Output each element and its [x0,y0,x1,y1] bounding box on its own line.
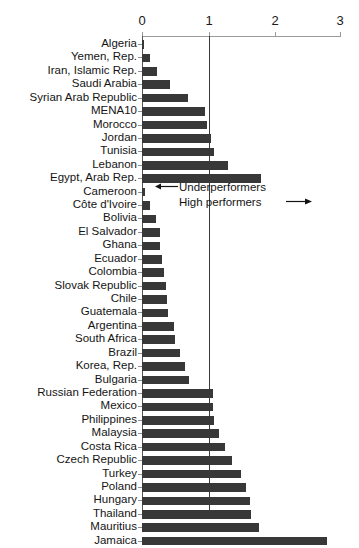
bar-row-label: Algeria [101,37,137,50]
bar [142,470,241,479]
bar [142,483,246,492]
bar [142,255,162,264]
bar-row: Slovak Republic [0,280,359,293]
bar-row-label: South Africa [75,332,137,345]
bar-row: Thailand [0,508,359,521]
annotation-underperformers: Underperformers [179,181,266,194]
bar-row-label: Ecuador [94,252,137,265]
bar [142,228,160,237]
bar-row: Bulgaria [0,374,359,387]
bar-row: South Africa [0,333,359,346]
bar [142,282,166,291]
bar-row-label: Guatemala [81,305,137,318]
bar [142,322,174,331]
bar-row: Korea, Rep. [0,360,359,373]
bar-row-label: Jamaica [94,534,137,547]
bar-row: Jamaica [0,535,359,548]
bar-row-label: Syrian Arab Republic [30,91,137,104]
bar-row-label: Poland [101,480,137,493]
bar-row-label: Yemen, Rep. [71,50,137,63]
bar [142,523,259,532]
bar-row: Jordan [0,132,359,145]
bar [142,349,180,358]
x-axis-line [142,36,340,37]
bar-row-label: Turkey [102,467,137,480]
bar-row-label: MENA10 [91,104,137,117]
bar [142,54,150,63]
bar [142,188,145,197]
bar [142,268,164,277]
bar-row-label: Saudi Arabia [72,77,137,90]
bar [142,389,213,398]
bar-row-label: Colombia [88,265,137,278]
bar [142,107,205,116]
bar-row-label: Brazil [108,346,137,359]
bar-row-label: Morocco [93,118,137,131]
bar-row: Iran, Islamic Rep. [0,65,359,78]
bar-row-label: El Salvador [78,225,137,238]
bar [142,201,150,210]
bar-row-label: Philippines [81,413,137,426]
right-arrow-icon [286,196,312,207]
bar [142,429,219,438]
bar [142,134,211,143]
bar-row: Brazil [0,347,359,360]
bar [142,510,251,519]
bar [142,148,214,157]
bar-row-label: Iran, Islamic Rep. [48,64,137,77]
bar-row: Yemen, Rep. [0,51,359,64]
bar [142,161,228,170]
bar-row: El Salvador [0,226,359,239]
bar-row: Malaysia [0,427,359,440]
bar-row-label: Slovak Republic [55,279,137,292]
bar-row-label: Jordan [102,131,137,144]
bar-row: Costa Rica [0,441,359,454]
bar-row-label: Bolivia [103,211,137,224]
bar [142,80,170,89]
left-arrow-icon [155,181,179,192]
bar-row-label: Bulgaria [95,373,137,386]
bar-row-label: Thailand [93,507,137,520]
bar-row-label: Malaysia [92,426,137,439]
bar-row-label: Russian Federation [37,386,137,399]
bar-row: Colombia [0,266,359,279]
bar [142,456,232,465]
bar-row-label: Czech Republic [56,453,137,466]
bar-row: Czech Republic [0,454,359,467]
bar-rows: AlgeriaYemen, Rep.Iran, Islamic Rep.Saud… [0,38,359,548]
bar-row: Ghana [0,239,359,252]
bar-row-label: Mexico [101,399,137,412]
x-tick-mark-3 [340,32,341,37]
bar-row-label: Mauritius [90,520,137,533]
bar-row: Saudi Arabia [0,78,359,91]
bar [142,215,156,224]
bar-row: Chile [0,293,359,306]
bar-row-label: Chile [111,292,137,305]
bar-row: Lebanon [0,159,359,172]
bar [142,403,213,412]
bar-row: Tunisia [0,145,359,158]
bar-row-label: Hungary [94,493,137,506]
bar [142,309,168,318]
bar [142,67,157,76]
bar [142,443,225,452]
bar [142,416,214,425]
bar-row: Russian Federation [0,387,359,400]
bar [142,40,144,49]
bar-row: Bolivia [0,212,359,225]
bar-row-label: Argentina [88,319,137,332]
bar-row: Philippines [0,414,359,427]
bar-row-label: Costa Rica [81,440,137,453]
bar-row: Poland [0,481,359,494]
annotation-high-performers: High performers [179,196,261,209]
bar [142,94,188,103]
bar-row: Turkey [0,468,359,481]
bar-row: Ecuador [0,253,359,266]
bar-row: Algeria [0,38,359,51]
bar-row-label: Tunisia [100,144,137,157]
bar [142,537,327,546]
bar-row: Syrian Arab Republic [0,92,359,105]
bar-row: Mexico [0,400,359,413]
bar-row-label: Lebanon [92,158,137,171]
